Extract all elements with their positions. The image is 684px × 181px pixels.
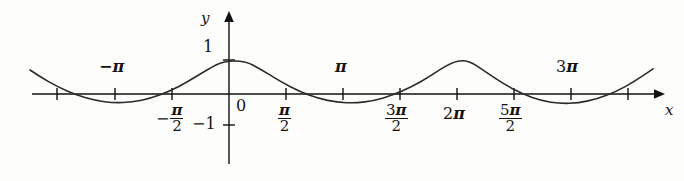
fraction-pi-over-2: π 2 [170, 103, 183, 134]
x-tick-label-pi: π [335, 59, 347, 75]
x-axis [32, 89, 665, 99]
y-tick-label-one: 1 [203, 39, 213, 55]
two-pi-symbol: π [453, 104, 465, 123]
fraction-denominator: 2 [499, 119, 522, 134]
y-axis [224, 11, 234, 164]
y-axis-label: y [201, 11, 209, 26]
fraction-5pi-over-2: 5π 2 [499, 103, 522, 134]
origin-label: 0 [236, 98, 246, 114]
fraction-pi-over-2-positive: π 2 [278, 103, 291, 134]
fraction-3pi-over-2: 3π 2 [385, 103, 408, 134]
x-axis-label: x [665, 103, 673, 118]
cosine-graph-figure: y x 1 −1 0 −π π 3π 2π − π 2 π 2 3π 2 [0, 0, 684, 181]
x-tick-label-minus-pi: −π [99, 59, 124, 75]
x-tick-label-3pi-over-2: 3π 2 [385, 103, 408, 134]
two-pi-coefficient: 2 [443, 104, 453, 123]
x-tick-label-3pi: 3π [556, 59, 578, 75]
x-tick-label-minus-pi-over-2: − π 2 [156, 103, 183, 134]
three-pi-coefficient: 3 [556, 57, 566, 76]
x-axis-arrowhead [654, 89, 665, 99]
fraction-denominator: 2 [278, 119, 291, 134]
x-tick-label-pi-over-2: π 2 [278, 103, 291, 134]
y-tick-label-minus-one: −1 [192, 116, 216, 132]
x-tick-label-5pi-over-2: 5π 2 [499, 103, 522, 134]
fraction-denominator: 2 [170, 119, 183, 134]
x-tick-label-2pi: 2π [443, 106, 465, 122]
fraction-denominator: 2 [385, 119, 408, 134]
plot-canvas [0, 0, 684, 181]
minus-sign-pi-half: − [156, 111, 169, 127]
three-pi-symbol: π [566, 57, 578, 76]
y-axis-arrowhead [224, 11, 234, 22]
